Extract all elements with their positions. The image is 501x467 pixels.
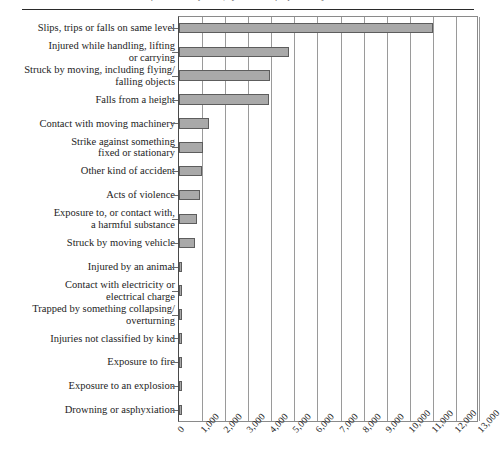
axis-tick [172, 386, 178, 387]
category-label: Acts of violence [0, 189, 175, 201]
bar-row: Acts of violence [0, 183, 493, 207]
bar-row: Strike against something fixed or statio… [0, 135, 493, 159]
category-label: Injured by an animal [0, 261, 175, 273]
category-label: Drowning or asphyxiation [0, 404, 175, 416]
axis-tick [172, 52, 178, 53]
bar-chart: Slips, trips or falls on same levelInjur… [0, 14, 493, 467]
bar [179, 285, 182, 296]
bar [179, 70, 270, 81]
axis-tick [172, 171, 178, 172]
bar-row: Trapped by something collapsing/ overtur… [0, 303, 493, 327]
axis-tick [172, 410, 178, 411]
category-label: Injured while handling, lifting or carry… [0, 40, 175, 63]
bar [179, 47, 289, 58]
bar [179, 357, 182, 368]
bar [179, 23, 433, 34]
bar [179, 118, 209, 129]
bar-row: Contact with electricity or electrical c… [0, 279, 493, 303]
axis-tick [172, 100, 178, 101]
axis-tick [172, 362, 178, 363]
x-tick-label: 0 [175, 423, 186, 434]
bar [179, 405, 182, 416]
category-label: Falls from a height [0, 94, 175, 106]
category-label: Injuries not classified by kind [0, 333, 175, 345]
bar [179, 333, 182, 344]
bar [179, 166, 202, 177]
bar-row: Struck by moving, including flying/ fall… [0, 64, 493, 88]
category-label: Contact with electricity or electrical c… [0, 279, 175, 302]
axis-tick [172, 243, 178, 244]
bar [179, 309, 182, 320]
axis-tick [172, 315, 178, 316]
category-label: Trapped by something collapsing/ overtur… [0, 303, 175, 326]
bar-row: Injured while handling, lifting or carry… [0, 40, 493, 64]
bar [179, 214, 197, 225]
category-label: Exposure to an explosion [0, 380, 175, 392]
axis-tick [172, 291, 178, 292]
category-label: Exposure to, or contact with, a harmful … [0, 207, 175, 230]
bar [179, 381, 182, 392]
cropped-title-strip: Kinds of accident reported, by number of… [0, 0, 493, 9]
bar-row: Contact with moving machinery [0, 112, 493, 136]
axis-tick [172, 123, 178, 124]
axis-tick [172, 219, 178, 220]
x-axis-tick-labels: 01,0002,0003,0004,0005,0006,0007,0008,00… [0, 424, 493, 467]
bar-row: Falls from a height [0, 88, 493, 112]
bar [179, 262, 182, 273]
axis-tick [172, 147, 178, 148]
axis-tick [172, 195, 178, 196]
bar-row: Exposure to, or contact with, a harmful … [0, 207, 493, 231]
axis-tick [172, 28, 178, 29]
bar-row: Injured by an animal [0, 255, 493, 279]
bar [179, 238, 195, 249]
page-title-ghost: Kinds of accident reported, by number of… [122, 0, 344, 1]
bar-row: Slips, trips or falls on same level [0, 16, 493, 40]
bar [179, 142, 203, 153]
category-label: Slips, trips or falls on same level [0, 22, 175, 34]
bar-row: Other kind of accident [0, 159, 493, 183]
bar [179, 190, 200, 201]
axis-tick [172, 76, 178, 77]
bar-row: Injuries not classified by kind [0, 326, 493, 350]
category-label: Exposure to fire [0, 356, 175, 368]
header-rule [22, 9, 474, 10]
axis-tick [172, 338, 178, 339]
category-label: Contact with moving machinery [0, 118, 175, 130]
category-label: Strike against something fixed or statio… [0, 136, 175, 159]
bar-row: Exposure to fire [0, 350, 493, 374]
bar-row: Struck by moving vehicle [0, 231, 493, 255]
bar-row: Exposure to an explosion [0, 374, 493, 398]
category-label: Struck by moving vehicle [0, 237, 175, 249]
axis-tick [172, 267, 178, 268]
category-label: Other kind of accident [0, 165, 175, 177]
category-label: Struck by moving, including flying/ fall… [0, 64, 175, 87]
bar [179, 94, 269, 105]
bar-rows: Slips, trips or falls on same levelInjur… [0, 16, 493, 422]
